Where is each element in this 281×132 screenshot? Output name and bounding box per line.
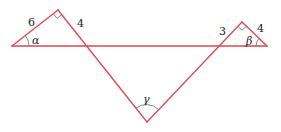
angle-arc-beta: [256, 38, 259, 46]
label-side-3: 3: [219, 25, 226, 38]
left-diagonal-to-gamma: [58, 10, 147, 122]
angle-arc-alpha: [25, 36, 29, 47]
right-angle-mark-right: [238, 26, 246, 30]
geometry-diagram: 6 4 3 4 α β γ: [0, 0, 281, 132]
right-diagonal-from-gamma: [147, 22, 242, 122]
label-angle-alpha: α: [32, 34, 40, 47]
label-side-4-left: 4: [77, 17, 84, 30]
label-angle-gamma: γ: [143, 93, 150, 106]
label-side-4-right: 4: [257, 22, 264, 35]
label-side-6: 6: [28, 16, 35, 29]
right-angle-mark-left: [53, 14, 61, 19]
label-angle-beta: β: [245, 35, 252, 48]
